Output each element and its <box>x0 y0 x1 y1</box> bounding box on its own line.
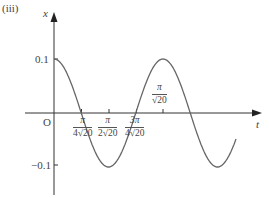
y-axis-label: x <box>43 8 48 19</box>
fraction-numerator: π <box>105 116 110 127</box>
x-axis-label: t <box>256 119 259 130</box>
fraction-denominator: 4√20 <box>125 127 144 139</box>
y-tick-label-0.1: 0.1 <box>35 54 49 65</box>
x-tick-label-pi-2root20: π 2√20 <box>98 116 117 138</box>
fraction-denominator: √20 <box>152 94 167 106</box>
x-tick-label-pi-4root20: π 4√20 <box>73 116 92 138</box>
fraction-numerator: π <box>80 116 85 127</box>
y-tick-label-neg-0.1: −0.1 <box>31 160 51 171</box>
fraction-denominator: 2√20 <box>98 127 117 139</box>
x-tick-label-3pi-4root20: 3π 4√20 <box>125 116 144 138</box>
x-tick-label-pi-root20: π √20 <box>152 83 167 105</box>
x-axis-arrow-icon <box>252 110 262 117</box>
fraction-denominator: 4√20 <box>73 127 92 139</box>
fraction-numerator: 3π <box>130 116 140 127</box>
fraction-numerator: π <box>157 83 162 94</box>
figure-label: (iii) <box>2 3 19 14</box>
y-axis-arrow-icon <box>51 12 58 22</box>
origin-label: O <box>43 117 51 128</box>
